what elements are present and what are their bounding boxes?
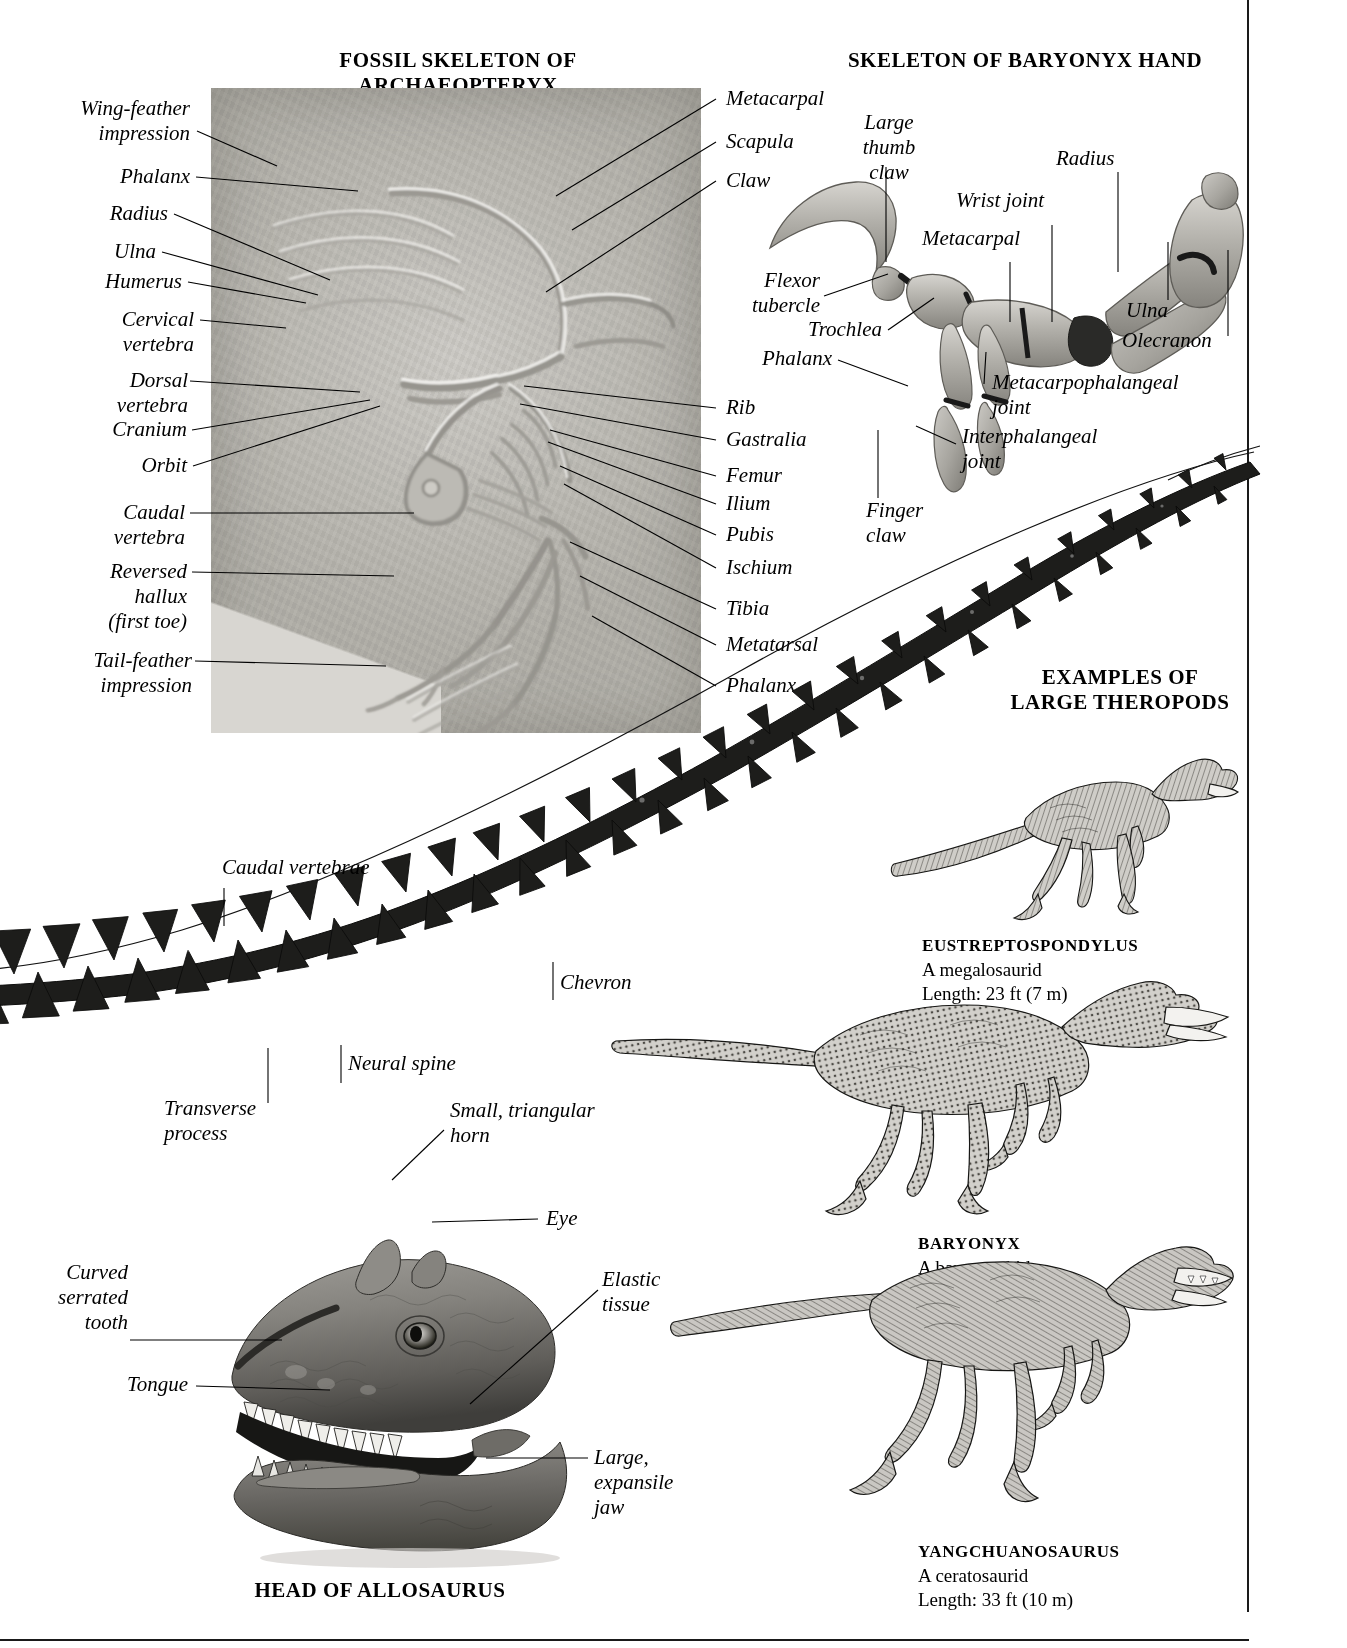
tail-label-caudal-vertebrae: Caudal vertebrae [222,855,482,880]
archaeopteryx-label-cervical-vertebra: Cervical vertebra [48,307,194,357]
theropod-illustration-eustreptospondylus [890,718,1240,928]
archaeopteryx-label-radius: Radius [48,201,168,226]
baryonyx-label-wrist-joint: Wrist joint [956,188,1116,213]
large-theropods-title: EXAMPLES OF LARGE THEROPODS [1000,665,1240,715]
baryonyx-hand-title: SKELETON OF BARYONYX HAND [840,48,1210,73]
archaeopteryx-label-ulna: Ulna [48,239,156,264]
baryonyx-label-trochlea: Trochlea [700,317,882,342]
baryonyx-label-metacarpal: Metacarpal [922,226,1092,251]
allosaurus-label-tongue: Tongue [20,1372,188,1397]
theropod-caption-yangchuanosaurus: YANGCHUANOSAURUS A ceratosaurid Length: … [918,1540,1218,1612]
dinosaur-anatomy-page: FOSSIL SKELETON OF ARCHAEOPTERYX [0,0,1347,1648]
allosaurus-head-title: HEAD OF ALLOSAURUS [170,1578,590,1603]
theropod-illustration-baryonyx [610,955,1240,1235]
theropod-group-yangchuanosaurus: A ceratosaurid [918,1564,1218,1588]
tail-label-transverse-process: Transverse process [164,1096,314,1146]
baryonyx-label-phalanx: Phalanx [700,346,832,371]
archaeopteryx-label-phalanx: Phalanx [48,164,190,189]
baryonyx-label-ulna: Ulna [1126,298,1226,323]
allosaurus-label-curved-serrated-tooth: Curved serrated tooth [20,1260,128,1335]
baryonyx-label-radius: Radius [1056,146,1176,171]
theropod-illustration-yangchuanosaurus [670,1230,1240,1540]
theropod-name-yangchuanosaurus: YANGCHUANOSAURUS [918,1540,1218,1564]
baryonyx-label-metacarpophalangeal-joint: Metacarpophalangeal joint [992,370,1242,420]
archaeopteryx-label-cranium: Cranium [48,417,187,442]
archaeopteryx-label-humerus: Humerus [48,269,182,294]
baryonyx-label-large-thumb-claw: Large thumb claw [846,110,932,185]
archaeopteryx-label-wing-feather-impression: Wing-feather impression [48,96,190,146]
baryonyx-label-olecranon: Olecranon [1122,328,1262,353]
theropod-length-yangchuanosaurus: Length: 33 ft (10 m) [918,1588,1218,1612]
tail-label-neural-spine: Neural spine [348,1051,538,1076]
baryonyx-label-flexor-tubercle: Flexor tubercle [700,268,820,318]
page-border-bottom [0,1639,1249,1641]
archaeopteryx-label-dorsal-vertebra: Dorsal vertebra [48,368,188,418]
